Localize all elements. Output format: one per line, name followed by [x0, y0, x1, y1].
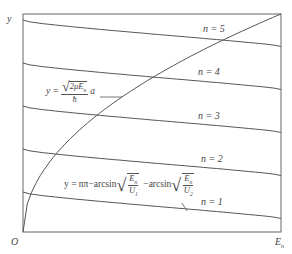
formula1-fraction: √ 2μEn ħ: [61, 80, 88, 104]
formula1-lhs: y =: [46, 87, 59, 97]
formula1-numerator: √ 2μEn: [61, 80, 88, 95]
formula1-tail: a: [90, 87, 95, 97]
formula2-frac2: En U2: [182, 173, 194, 197]
formula1-radicand: 2μEn: [69, 81, 87, 93]
level-label-n4: n = 4: [198, 67, 220, 77]
sqrt-energy-curve: [23, 14, 281, 232]
plot-frame: [23, 14, 281, 232]
x-axis-label: En: [275, 237, 284, 249]
formula2-lhs: y = nπ−arcsin: [64, 180, 116, 190]
formula2-frac1: En U1: [127, 173, 139, 197]
level-curve-n5: [23, 20, 281, 47]
formula2-sqrt2: √ En U2: [171, 173, 196, 197]
formula1-denominator: ħ: [72, 95, 76, 104]
level-curve-n2: [23, 149, 281, 176]
sqrt-symbol: √: [116, 176, 126, 194]
sqrt-symbol: √: [171, 176, 181, 194]
formula2-leader-line: [182, 203, 187, 211]
origin-label: O: [11, 237, 18, 247]
level-label-n3: n = 3: [198, 111, 220, 121]
level-label-n5: n = 5: [203, 24, 225, 34]
sqrt-curve-formula: y = √ 2μEn ħ a: [46, 80, 95, 104]
diagram-canvas: [0, 0, 292, 254]
level-label-n1: n = 1: [201, 197, 223, 207]
x-axis-label-sub: n: [281, 243, 284, 249]
y-axis-label: y: [7, 14, 11, 24]
level-curve-formula: y = nπ−arcsin √ En U1 −arcsin √ En U2: [64, 173, 196, 197]
level-curve-n3: [23, 106, 281, 133]
formula2-mid: −arcsin: [143, 180, 171, 190]
formula2-sqrt1: √ En U1: [116, 173, 141, 197]
level-label-n2: n = 2: [201, 154, 223, 164]
